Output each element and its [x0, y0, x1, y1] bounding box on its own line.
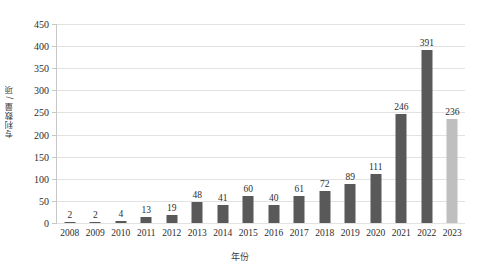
x-axis-tick-labels: 2008200920102011201220132014201520162017…	[57, 228, 465, 244]
bar	[319, 191, 330, 223]
bar-group: 61	[287, 24, 313, 223]
bar-group: 236	[440, 24, 466, 223]
bar-chart: 专利数量 / 项 050100150200250300350400450 224…	[0, 0, 480, 273]
y-tick-mark	[52, 112, 56, 113]
y-tick-mark	[52, 90, 56, 91]
y-tick-mark	[52, 68, 56, 69]
y-tick-label: 250	[5, 107, 49, 118]
bar-group: 19	[159, 24, 185, 223]
bar-value-label: 89	[346, 172, 356, 182]
bar-value-label: 13	[142, 205, 152, 215]
bar	[447, 119, 458, 223]
bar-value-label: 40	[269, 193, 279, 203]
x-axis-title: 年份	[0, 250, 480, 263]
bar-group: 4	[108, 24, 134, 223]
bar-value-label: 2	[93, 210, 98, 220]
x-tick-label: 2017	[290, 228, 309, 238]
y-tick-label: 50	[5, 195, 49, 206]
bar-group: 2	[83, 24, 109, 223]
bar-group: 391	[414, 24, 440, 223]
y-axis-tick-labels: 050100150200250300350400450	[0, 24, 49, 224]
y-tick-label: 0	[5, 218, 49, 229]
bar-value-label: 236	[445, 107, 459, 117]
y-tick-mark	[52, 179, 56, 180]
bar-group: 2	[57, 24, 83, 223]
x-tick-label: 2018	[315, 228, 334, 238]
bar-value-label: 61	[295, 184, 305, 194]
y-tick-label: 200	[5, 129, 49, 140]
x-tick-label: 2015	[239, 228, 258, 238]
bar	[243, 196, 254, 223]
x-tick-label: 2011	[137, 228, 156, 238]
x-tick-label: 2014	[213, 228, 232, 238]
x-tick-label: 2021	[392, 228, 411, 238]
y-tick-label: 150	[5, 151, 49, 162]
x-tick-label: 2019	[341, 228, 360, 238]
y-tick-mark	[52, 157, 56, 158]
y-tick-label: 450	[5, 19, 49, 30]
bar	[64, 222, 75, 223]
x-tick-label: 2016	[264, 228, 283, 238]
bar-value-label: 246	[394, 102, 408, 112]
bar-group: 60	[236, 24, 262, 223]
bar	[115, 221, 126, 223]
bar-group: 72	[312, 24, 338, 223]
bar-group: 89	[338, 24, 364, 223]
bar-group: 13	[134, 24, 160, 223]
bar	[166, 215, 177, 223]
x-tick-label: 2008	[60, 228, 79, 238]
bar	[294, 196, 305, 223]
x-tick-label: 2009	[86, 228, 105, 238]
y-tick-mark	[52, 201, 56, 202]
bar-group: 111	[363, 24, 389, 223]
bar-group: 246	[389, 24, 415, 223]
x-tick-label: 2012	[162, 228, 181, 238]
bar-value-label: 72	[320, 179, 330, 189]
bar-value-label: 41	[218, 193, 228, 203]
bar-value-label: 19	[167, 203, 177, 213]
x-tick-label: 2010	[111, 228, 130, 238]
bar	[90, 222, 101, 223]
bar	[268, 205, 279, 223]
y-tick-label: 400	[5, 41, 49, 52]
bars-layer: 224131948416040617289111246391236	[57, 24, 465, 223]
x-tick-label: 2013	[188, 228, 207, 238]
bar-value-label: 391	[420, 38, 434, 48]
bar-value-label: 4	[118, 209, 123, 219]
y-tick-label: 100	[5, 173, 49, 184]
y-tick-mark	[52, 24, 56, 25]
bar	[421, 50, 432, 223]
x-tick-label: 2023	[443, 228, 462, 238]
bar-group: 48	[185, 24, 211, 223]
y-tick-mark	[52, 46, 56, 47]
bar-value-label: 2	[67, 210, 72, 220]
x-tick-label: 2022	[417, 228, 436, 238]
bar-group: 41	[210, 24, 236, 223]
y-tick-label: 350	[5, 63, 49, 74]
bar	[345, 184, 356, 223]
bar-value-label: 60	[244, 184, 254, 194]
y-tick-mark	[52, 135, 56, 136]
bar-value-label: 111	[369, 162, 383, 172]
bar-value-label: 48	[193, 190, 203, 200]
bar	[217, 205, 228, 223]
bar	[192, 202, 203, 223]
bar	[141, 217, 152, 223]
x-tick-label: 2020	[366, 228, 385, 238]
y-tick-label: 300	[5, 85, 49, 96]
y-tick-mark	[52, 223, 56, 224]
gridline	[57, 223, 465, 224]
bar-group: 40	[261, 24, 287, 223]
bar	[370, 174, 381, 223]
bar	[396, 114, 407, 223]
